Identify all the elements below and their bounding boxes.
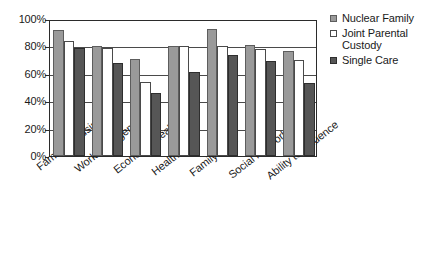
bar: [102, 48, 113, 156]
legend-label: Nuclear Family: [342, 12, 414, 24]
y-axis-tick-label: 40%: [25, 96, 46, 107]
bar: [294, 60, 305, 156]
bar: [151, 93, 162, 156]
bar: [130, 59, 141, 156]
y-axis-tick: [45, 47, 49, 48]
bar: [255, 49, 266, 156]
bar-group: [130, 21, 162, 156]
bar-group: [245, 21, 277, 156]
bar-chart: 100%80%60%40%20%0% Family's housingWork …: [0, 0, 427, 263]
bar-groups: [50, 21, 316, 156]
bar: [189, 72, 200, 156]
bar-group: [168, 21, 200, 156]
bar: [217, 46, 228, 156]
bar: [207, 29, 218, 156]
y-axis-tick: [45, 20, 49, 21]
bar: [266, 61, 277, 156]
bar: [92, 46, 103, 156]
bar: [245, 45, 256, 156]
bar: [179, 46, 190, 156]
y-axis-tick: [45, 75, 49, 76]
legend-swatch-icon: [330, 30, 337, 37]
bar-group: [92, 21, 124, 156]
legend-label: Joint Parental Custody: [342, 27, 426, 51]
bar: [64, 41, 75, 156]
bar: [228, 55, 239, 156]
chart-legend: Nuclear FamilyJoint Parental CustodySing…: [330, 12, 426, 69]
bar-group: [283, 21, 315, 156]
y-axis: 100%80%60%40%20%0%: [0, 0, 46, 163]
bar-group: [207, 21, 239, 156]
legend-item[interactable]: Joint Parental Custody: [330, 27, 426, 51]
legend-item[interactable]: Single Care: [330, 54, 426, 66]
y-axis-tick-label: 20%: [25, 124, 46, 135]
bar: [53, 30, 64, 156]
bar: [140, 82, 151, 156]
bar: [283, 51, 294, 156]
bar: [304, 83, 315, 156]
legend-swatch-icon: [330, 15, 337, 22]
y-axis-tick-label: 100%: [19, 14, 46, 25]
legend-label: Single Care: [342, 54, 398, 66]
bar: [168, 46, 179, 156]
y-axis-tick: [45, 102, 49, 103]
y-axis-tick-label: 60%: [25, 69, 46, 80]
y-axis-tick: [45, 130, 49, 131]
y-axis-tick-label: 80%: [25, 41, 46, 52]
bar: [113, 63, 124, 156]
legend-item[interactable]: Nuclear Family: [330, 12, 426, 24]
bar: [74, 48, 85, 156]
x-axis: Family's housingWork arrangementsEconomi…: [0, 159, 427, 263]
legend-swatch-icon: [330, 57, 337, 64]
bar-group: [53, 21, 85, 156]
